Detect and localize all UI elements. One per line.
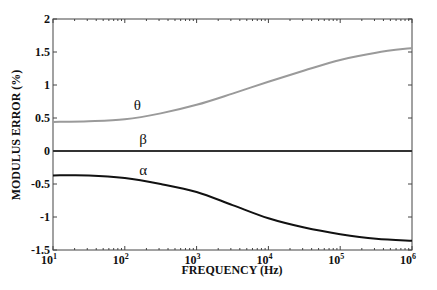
y-axis-ticks: -1.5-1-0.500.511.52 <box>31 12 412 257</box>
curve-labels: θβα <box>134 97 147 178</box>
x-tick-label: 105 <box>328 252 344 267</box>
plot-frame <box>53 19 412 250</box>
data-curves <box>53 48 412 241</box>
y-axis-title: MODULUS ERROR (%) <box>9 70 23 201</box>
plot-border <box>53 19 412 250</box>
y-tick-label: 2 <box>44 12 50 26</box>
curve-label: β <box>139 131 147 147</box>
y-tick-label: -1 <box>40 210 50 224</box>
y-tick-label: 0.5 <box>35 111 50 125</box>
curve-θ <box>53 48 412 122</box>
curve-label: θ <box>134 97 141 113</box>
y-tick-label: -0.5 <box>31 177 50 191</box>
curve-label: α <box>139 162 147 178</box>
y-tick-label: 0 <box>44 144 50 158</box>
curve-α <box>53 175 412 241</box>
y-tick-label: 1.5 <box>35 45 50 59</box>
y-tick-label: 1 <box>44 78 50 92</box>
x-axis-title: FREQUENCY (Hz) <box>181 263 282 277</box>
x-tick-label: 101 <box>41 252 57 267</box>
modulus-error-chart: -1.5-1-0.500.511.52 101102103104105106 θ… <box>0 0 437 290</box>
x-tick-label: 102 <box>113 252 129 267</box>
x-tick-label: 106 <box>400 252 416 267</box>
